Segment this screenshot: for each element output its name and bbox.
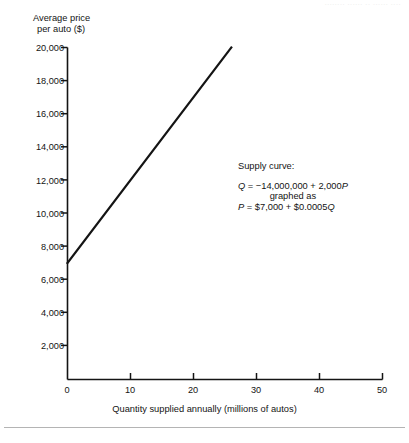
plot-area	[0, 0, 409, 443]
annotation-equation-p: P = $7,000 + $0.0005Q	[238, 202, 348, 213]
eq-q-body: = −14,000,000 + 2,000	[245, 181, 341, 191]
x-axis-ticks	[131, 373, 383, 380]
bottom-divider	[4, 427, 405, 428]
supply-curve-figure: ........ ...... .. ...... .... Average p…	[0, 0, 409, 443]
eq-p-body: = $7,000 + $0.0005	[244, 202, 327, 212]
annotation-title: Supply curve:	[238, 161, 348, 172]
x-axis-title: Quantity supplied annually (millions of …	[0, 404, 409, 414]
eq-q-tail: P	[342, 181, 348, 191]
eq-p-tail: Q	[327, 202, 334, 212]
annotation-equation-q: Q = −14,000,000 + 2,000P	[238, 181, 348, 192]
y-axis-ticks	[61, 48, 68, 346]
supply-curve-annotation: Supply curve: Q = −14,000,000 + 2,000P g…	[238, 161, 348, 212]
supply-curve-line	[68, 48, 232, 264]
annotation-graphed-as: graphed as	[238, 191, 348, 202]
